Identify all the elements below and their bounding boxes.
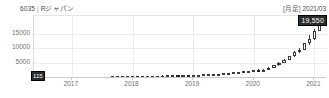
chart-header: 6035|Rジャパン [月足]2021/03 <box>0 3 329 14</box>
as-of-date: 2021/03 <box>301 5 327 12</box>
candle-body-up <box>242 71 245 73</box>
candle-body-up <box>252 70 255 72</box>
chart-title: 6035|Rジャパン <box>20 3 74 13</box>
company-name: Rジャパン <box>41 5 74 12</box>
x-axis-tick-label: 2021 <box>306 80 320 87</box>
candle-body-up <box>303 43 306 49</box>
frequency-label: [月足] <box>283 5 301 12</box>
candle-body-up <box>308 39 311 43</box>
candle-body-up <box>277 63 280 66</box>
ticker-code: 6035 <box>20 5 35 12</box>
candle-body-up <box>267 68 270 70</box>
candle-body-up <box>288 56 291 60</box>
chart-meta: [月足]2021/03 <box>283 3 326 13</box>
last-price-tag: 19,550 <box>298 15 327 26</box>
candle-body-up <box>217 74 220 76</box>
y-axis-tick-label: 10000 <box>0 43 30 50</box>
candle-body-up <box>293 52 296 56</box>
candle-body-up <box>237 72 240 74</box>
plot-area <box>33 15 327 78</box>
y-axis-tick-label: 15000 <box>0 29 30 36</box>
stock-chart-widget: 6035|Rジャパン [月足]2021/03 5000 10000 15000 … <box>0 0 329 98</box>
candle-body-up <box>212 74 215 76</box>
candle-body-up <box>222 73 225 75</box>
start-price-tag: 115 <box>31 71 45 81</box>
candle-body-up <box>247 71 250 73</box>
candle-body-up <box>272 65 275 67</box>
candle-body-up <box>313 31 316 39</box>
candle-body-up <box>232 72 235 74</box>
x-axis-line <box>33 77 326 78</box>
x-axis-tick-label: 2020 <box>246 80 260 87</box>
candle-body-up <box>262 70 265 72</box>
x-axis-tick-label: 2018 <box>124 80 138 87</box>
candle-body-up <box>207 74 210 76</box>
candle-body-up <box>227 73 230 75</box>
x-axis-tick-label: 2017 <box>64 80 78 87</box>
candle-body-up <box>298 50 301 53</box>
x-axis-tick-label: 2019 <box>185 80 199 87</box>
candle-body-up <box>282 60 285 63</box>
candle-body-down <box>257 70 260 72</box>
y-axis-tick-label: 5000 <box>0 58 30 65</box>
